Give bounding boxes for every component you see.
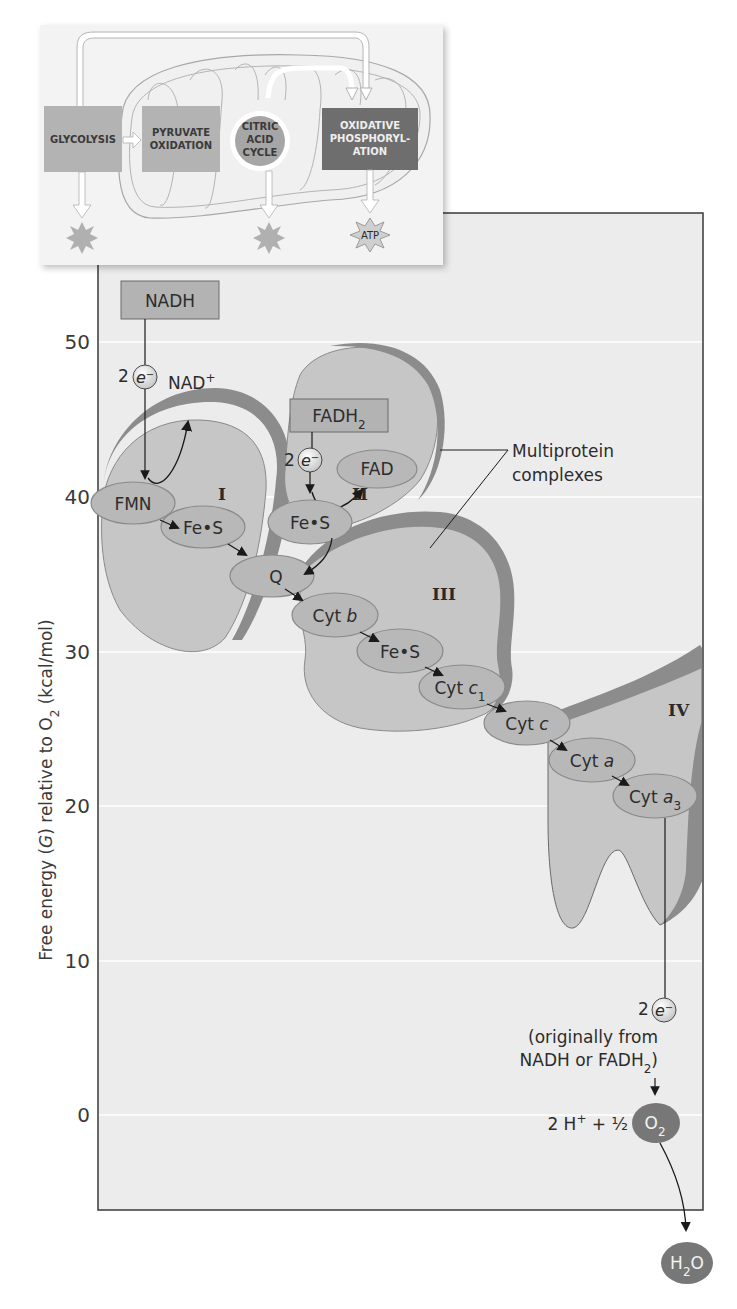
carrier-cyt-a3: Cyt a3 (613, 774, 697, 818)
fadh2-donor: FADH2 (290, 399, 388, 432)
atp-label: ATP (361, 230, 379, 241)
carrier-fmn: FMN (91, 482, 175, 524)
nadh-donor: NADH (121, 281, 219, 319)
cyt-a-label: Cyt a (570, 751, 614, 771)
tick-20: 20 (65, 794, 90, 818)
cyt-b-label: Cyt b (313, 606, 358, 626)
carrier-cyt-b: Cyt b (292, 593, 378, 637)
fmn-label: FMN (114, 494, 151, 514)
tick-40: 40 (65, 485, 90, 509)
origin-note-line-1: (originally from (528, 1027, 658, 1047)
complex-iv-label: IV (668, 700, 690, 720)
tick-0: 0 (77, 1103, 90, 1127)
carrier-cyt-c1: Cyt c1 (419, 665, 505, 709)
complex-i-label: I (218, 484, 226, 504)
pyruvate-label-2: OXIDATION (150, 140, 212, 151)
electron-pair-nadh: 2 e− (118, 365, 157, 389)
atp-burst-citric (253, 222, 285, 254)
fes-label: Fe•S (380, 642, 420, 662)
y-axis-label: Free energy (G) relative to O2 (kcal/mol… (36, 619, 62, 960)
glycolysis-label: GLYCOLYSIS (50, 134, 116, 145)
electron-pair-fadh2: 2 e− (284, 448, 322, 472)
electron-pair-terminal: 2 e− (638, 998, 676, 1022)
pyruvate-label-1: PYRUVATE (152, 127, 210, 138)
etc-diagram: 50 40 30 20 10 0 Free energy (G) relativ… (0, 0, 737, 1309)
fes-label: Fe•S (290, 513, 330, 533)
fad-label: FAD (361, 459, 394, 479)
complex-iii-label: III (432, 584, 456, 604)
q-label: Q (269, 567, 282, 587)
water-product: H2O (661, 1242, 713, 1284)
oxphos-label-3: ATION (353, 146, 387, 157)
carrier-q: Q (230, 555, 314, 597)
callout-line-2: complexes (512, 465, 603, 485)
respiration-overview-inset: GLYCOLYSIS PYRUVATE OXIDATION CITRIC ACI… (40, 25, 443, 265)
citric-label-2: ACID (246, 134, 273, 145)
tick-10: 10 (65, 949, 90, 973)
callout-line-1: Multiprotein (512, 441, 614, 461)
nadh-label: NADH (145, 291, 195, 311)
tick-30: 30 (65, 640, 90, 664)
cyt-c-label: Cyt c (505, 714, 549, 734)
electron-count: 2 (284, 450, 295, 470)
carrier-fes-complex-iii: Fe•S (357, 629, 443, 673)
reaction-label: 2 H+ + ½ (547, 1112, 628, 1134)
carrier-fes-complex-ii: Fe•S (268, 500, 352, 544)
tick-50: 50 (65, 330, 90, 354)
fes-label: Fe•S (183, 518, 223, 538)
carrier-cyt-a: Cyt a (549, 738, 635, 782)
y-tick-labels: 50 40 30 20 10 0 (65, 330, 90, 1127)
electron-count: 2 (638, 999, 649, 1019)
citric-label-1: CITRIC (242, 121, 279, 132)
citric-label-3: CYCLE (243, 147, 278, 158)
oxphos-label-1: OXIDATIVE (340, 120, 400, 131)
oxphos-label-2: PHOSPHORYL- (330, 133, 411, 144)
stage-pyruvate-oxidation (142, 106, 220, 172)
atp-burst-glycolysis (66, 222, 98, 254)
carrier-fes-complex-i: Fe•S (161, 506, 245, 548)
electron-count: 2 (118, 366, 129, 386)
